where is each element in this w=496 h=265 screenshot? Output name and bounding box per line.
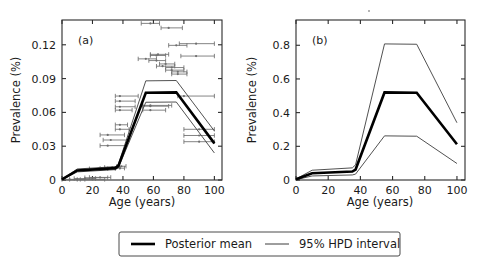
observation-point [165,63,167,65]
observation-point [107,134,109,136]
observation-point [171,66,173,68]
observation-point [198,128,200,130]
panel-b-x-ticklabel: 100 [446,184,467,197]
panel-b-tag: (b) [312,34,328,47]
observation-point [119,109,121,111]
panel-b-y-ticklabel: 0 [283,174,290,187]
panel-a-y-ticklabel: 0.09 [32,73,57,86]
observation-point [119,100,121,102]
panel-b-xlabel: Age (years) [347,195,414,209]
panel-b-y-ticklabel: 0.2 [273,140,291,153]
observation-point [120,165,122,167]
panel-a-y-ticklabel: 0 [49,174,56,187]
panel-a-y-ticklabel: 0.12 [32,39,57,52]
panel-b-x-ticklabel: 0 [293,184,300,197]
observation-point [149,22,151,24]
observation-point [119,106,121,108]
panel-a-x-ticklabel: 80 [177,184,191,197]
observation-point [145,58,147,60]
observation-point [195,55,197,57]
observation-point [110,139,112,141]
observation-point [119,124,121,126]
chart-svg: 00.030.060.090.12 020406080100 (a) Age (… [0,0,496,265]
panel-b-ylabel: Prevalence (%) [245,57,259,144]
observation-point [171,69,173,71]
panel-a-x-ticklabel: 20 [85,184,99,197]
observation-point [149,109,151,111]
panel-a-x-ticklabel: 100 [204,184,225,197]
observation-point [177,73,179,75]
observation-point [149,104,151,106]
legend-hpd-label: 95% HPD interval [299,237,400,251]
observation-point [168,27,170,29]
figure-root: 00.030.060.090.12 020406080100 (a) Age (… [0,0,496,265]
panel-a-ylabel: Prevalence (%) [9,57,23,144]
observation-point [157,53,159,55]
observation-point [119,167,121,169]
observation-point [195,43,197,45]
legend-mean-label: Posterior mean [165,237,252,251]
observation-point [175,44,177,46]
observation-point [119,95,121,97]
observation-point [99,176,101,178]
legend: Posterior mean 95% HPD interval [119,232,400,256]
image-speck [368,10,370,12]
panel-a-tag: (a) [78,34,93,47]
observation-point [107,145,109,147]
panel-b-y-ticklabel: 0.8 [273,39,291,52]
panel-b-y-ticklabel: 0.6 [273,73,291,86]
observation-point [161,65,163,67]
panel-a-y-ticklabel: 0.03 [32,140,57,153]
observation-point [119,128,121,130]
panel-a-xlabel: Age (years) [109,195,176,209]
panel-b-x-ticklabel: 80 [418,184,432,197]
panel-b-y-ticklabel: 0.4 [273,107,291,120]
observation-point [183,95,185,97]
panel-a-x-ticklabel: 0 [59,184,66,197]
observation-point [91,178,93,180]
observation-point [198,141,200,143]
panel-b-x-ticklabel: 20 [321,184,335,197]
panel-a-y-ticklabel: 0.06 [32,106,57,119]
observation-point [177,71,179,73]
observation-point [198,134,200,136]
